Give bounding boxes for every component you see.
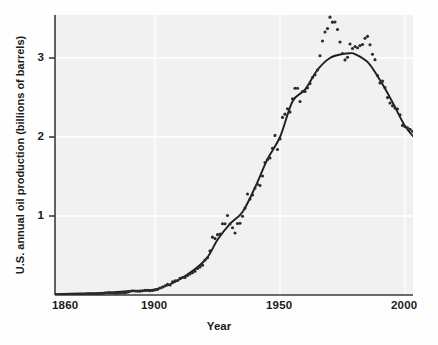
- data-point: [333, 21, 336, 24]
- data-point: [373, 58, 376, 61]
- data-point: [273, 134, 276, 137]
- data-point: [413, 137, 416, 140]
- data-point: [276, 148, 279, 151]
- data-point: [298, 100, 301, 103]
- data-point: [198, 265, 201, 268]
- data-point: [336, 28, 339, 31]
- data-point: [263, 161, 266, 164]
- data-point: [381, 80, 384, 83]
- data-point: [281, 116, 284, 119]
- y-axis-title: U.S. annual oil production (billions of …: [14, 10, 30, 300]
- data-point: [206, 256, 209, 259]
- data-point: [283, 113, 286, 116]
- data-point: [248, 198, 251, 201]
- ytick-label-2: 2: [28, 130, 44, 142]
- data-point: [383, 86, 386, 89]
- data-point: [271, 147, 274, 150]
- data-point: [303, 90, 306, 93]
- data-point: [391, 104, 394, 107]
- data-point: [203, 258, 206, 261]
- data-point: [213, 237, 216, 240]
- data-point: [368, 43, 371, 46]
- data-point: [238, 222, 241, 225]
- data-point: [278, 138, 281, 141]
- x-axis-title: Year: [0, 320, 438, 332]
- data-point: [338, 40, 341, 43]
- data-point: [226, 214, 229, 217]
- data-point: [288, 111, 291, 114]
- data-point: [306, 86, 309, 89]
- data-point: [388, 101, 391, 104]
- data-point: [386, 96, 389, 99]
- data-point: [291, 97, 294, 100]
- data-point: [176, 279, 179, 282]
- data-point: [193, 270, 196, 273]
- data-point: [308, 82, 311, 85]
- data-point: [326, 27, 329, 30]
- xtick-label-1950: 1950: [266, 299, 292, 311]
- data-point: [286, 107, 289, 110]
- data-point: [348, 42, 351, 45]
- data-point: [356, 46, 359, 49]
- data-point: [316, 68, 319, 71]
- data-point: [218, 233, 221, 236]
- data-point: [183, 276, 186, 279]
- data-point: [341, 52, 344, 55]
- data-point: [343, 58, 346, 61]
- data-point: [208, 249, 211, 252]
- data-point: [243, 207, 246, 210]
- xtick-label-1900: 1900: [141, 299, 167, 311]
- data-point: [321, 39, 324, 42]
- data-point: [251, 194, 254, 197]
- data-point: [313, 73, 316, 76]
- data-point: [168, 284, 171, 287]
- data-point: [201, 264, 204, 267]
- xtick-label-2000: 2000: [391, 299, 417, 311]
- data-point: [361, 43, 364, 46]
- y-axis-ticks: [49, 58, 55, 216]
- data-point: [241, 215, 244, 218]
- data-point: [223, 222, 226, 225]
- ytick-label-3: 3: [28, 51, 44, 63]
- data-point: [398, 113, 401, 116]
- data-point: [366, 35, 369, 38]
- ytick-label-1: 1: [28, 209, 44, 221]
- chart-canvas: [0, 0, 438, 345]
- data-point: [258, 184, 261, 187]
- data-point: [408, 128, 411, 131]
- data-point: [246, 192, 249, 195]
- data-point: [346, 56, 349, 59]
- data-point: [328, 16, 331, 19]
- data-point: [396, 107, 399, 110]
- xtick-label-1860: 1860: [52, 299, 78, 311]
- data-point: [268, 156, 271, 159]
- data-point: [261, 174, 264, 177]
- data-point: [411, 130, 414, 133]
- data-point: [363, 37, 366, 40]
- chart-figure: 1860 1900 1950 2000 1 2 3 Year U.S. annu…: [0, 0, 438, 345]
- data-point: [371, 53, 374, 56]
- data-point: [351, 47, 354, 50]
- data-point: [311, 76, 314, 79]
- data-point: [376, 74, 379, 77]
- data-point: [233, 231, 236, 234]
- data-point: [228, 223, 231, 226]
- data-point: [323, 30, 326, 33]
- data-point: [231, 226, 234, 229]
- data-point: [296, 87, 299, 90]
- data-point: [318, 54, 321, 57]
- data-point: [378, 81, 381, 84]
- data-point: [253, 187, 256, 190]
